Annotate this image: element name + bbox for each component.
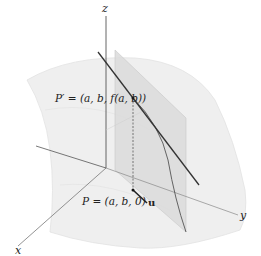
z-axis-label: z: [102, 3, 108, 14]
p-label: P = (a, b, 0): [82, 196, 146, 207]
diagram-figure: [0, 0, 261, 256]
u-label: u: [148, 198, 155, 208]
x-axis-label: x: [15, 245, 21, 256]
y-axis-label: y: [240, 210, 246, 221]
p-prime-label: P′ = (a, b, f(a, b)): [55, 93, 146, 104]
point-p: [132, 189, 135, 192]
